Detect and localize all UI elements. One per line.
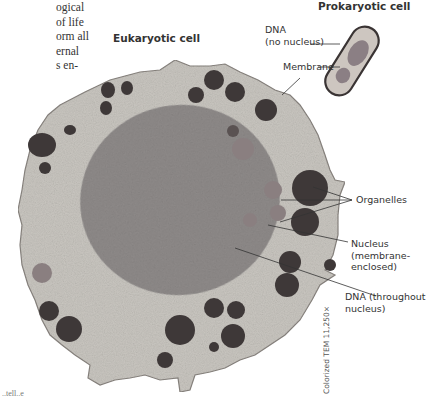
label-line: DNA: [265, 24, 324, 36]
label-line: Nucleus: [351, 238, 410, 250]
organelles-label: Organelles: [356, 194, 407, 206]
eukaryotic-cell: [18, 60, 345, 392]
nucleus-label: Nucleus (membrane- enclosed): [351, 238, 410, 273]
bottom-text-fragment: ..tell..e: [2, 388, 24, 399]
label-line: nucleus): [345, 303, 426, 315]
eukaryotic-cell-title: Eukaryotic cell: [113, 32, 200, 44]
dna-no-nucleus-label: DNA (no nucleus): [265, 24, 324, 47]
membrane-eukaryote-leader: [282, 78, 300, 95]
label-line: (no nucleus): [265, 36, 324, 48]
image-credit: Colorized TEM 11,250×: [322, 306, 331, 394]
label-line: (membrane-: [351, 250, 410, 262]
dna-throughout-nucleus-label: DNA (throughout nucleus): [374, 291, 426, 314]
membrane-label: Membrane: [283, 61, 334, 73]
label-line: enclosed): [351, 261, 410, 273]
label-line: DNA (throughout: [345, 291, 426, 303]
prokaryotic-cell-title: Prokaryotic cell: [318, 0, 410, 12]
